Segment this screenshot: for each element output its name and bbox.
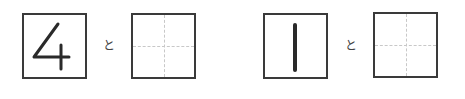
connector-to-2: と — [345, 40, 357, 52]
given-number-box-2: 1 — [263, 13, 328, 79]
answer-box-2[interactable] — [373, 12, 438, 78]
guide-line-horizontal — [375, 45, 436, 46]
answer-box-1[interactable] — [131, 13, 196, 79]
guide-line-horizontal — [133, 46, 194, 47]
digit-four-glyph — [24, 15, 85, 77]
given-number-box-1: 4 — [22, 13, 87, 79]
connector-to-1: と — [103, 40, 115, 52]
digit-one-glyph — [265, 15, 326, 77]
